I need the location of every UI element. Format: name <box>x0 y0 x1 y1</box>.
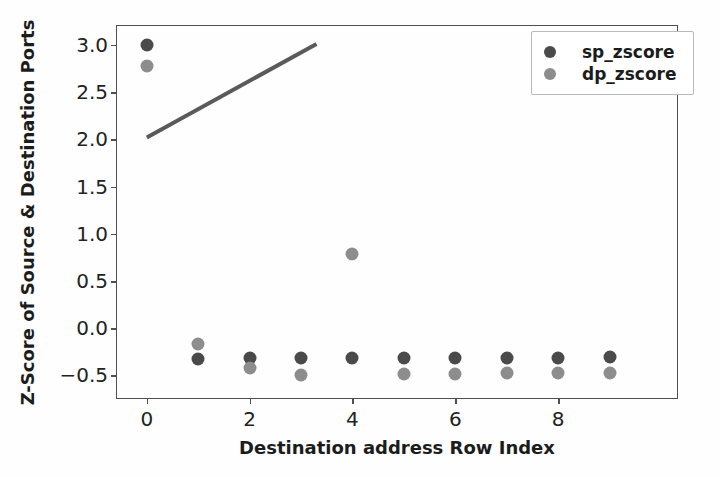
y-tick-label: 1.5 <box>76 177 108 197</box>
data-point-dp_zscore <box>397 367 410 380</box>
y-tick-mark <box>111 139 117 141</box>
data-point-sp_zscore <box>552 351 565 364</box>
y-axis-label-text: Z-Score of Source & Destination Ports <box>18 19 39 405</box>
y-tick-label: 2.0 <box>76 129 108 149</box>
data-point-dp_zscore <box>603 366 616 379</box>
y-tick-mark <box>111 234 117 236</box>
x-tick-mark <box>352 398 354 404</box>
y-tick-label: 0.5 <box>76 271 108 291</box>
chart-figure: Z-Score of Source & Destination Ports 3.… <box>0 0 720 477</box>
data-point-sp_zscore <box>346 352 359 365</box>
y-tick-mark <box>111 187 117 189</box>
legend-marker-dp-zscore <box>544 68 556 80</box>
data-point-sp_zscore <box>397 352 410 365</box>
data-point-sp_zscore <box>603 350 616 363</box>
legend-label-sp-zscore: sp_zscore <box>582 42 674 62</box>
legend-item[interactable]: dp_zscore <box>544 63 677 85</box>
chart-legend: sp_zscore dp_zscore <box>531 31 694 95</box>
data-point-dp_zscore <box>500 366 513 379</box>
y-axis-label: Z-Score of Source & Destination Ports <box>14 25 42 399</box>
data-point-dp_zscore <box>346 247 359 260</box>
x-tick-mark <box>558 398 560 404</box>
data-point-dp_zscore <box>449 367 462 380</box>
x-tick-mark <box>147 398 149 404</box>
data-point-dp_zscore <box>192 338 205 351</box>
legend-label-dp-zscore: dp_zscore <box>582 64 677 84</box>
data-point-sp_zscore <box>449 352 462 365</box>
x-tick-label: 2 <box>243 409 256 429</box>
x-tick-mark <box>250 398 252 404</box>
legend-marker-sp-zscore <box>544 46 556 58</box>
x-tick-mark <box>455 398 457 404</box>
data-point-sp_zscore <box>295 352 308 365</box>
y-tick-mark <box>111 92 117 94</box>
trend-line <box>147 44 317 138</box>
data-point-sp_zscore <box>140 38 153 51</box>
data-point-dp_zscore <box>140 59 153 72</box>
y-tick-label: 2.5 <box>76 82 108 102</box>
y-tick-mark <box>111 281 117 283</box>
y-tick-label: −0.5 <box>59 365 108 385</box>
y-tick-label: 0.0 <box>76 318 108 338</box>
data-point-dp_zscore <box>295 368 308 381</box>
x-axis-label: Destination address Row Index <box>116 437 678 458</box>
legend-item[interactable]: sp_zscore <box>544 41 677 63</box>
y-tick-mark <box>111 375 117 377</box>
y-tick-mark <box>111 45 117 47</box>
data-point-dp_zscore <box>552 366 565 379</box>
data-point-sp_zscore <box>500 352 513 365</box>
x-tick-label: 8 <box>552 409 565 429</box>
y-tick-label: 1.0 <box>76 224 108 244</box>
y-tick-mark <box>111 328 117 330</box>
x-tick-label: 6 <box>449 409 462 429</box>
x-tick-label: 4 <box>346 409 359 429</box>
data-point-dp_zscore <box>243 361 256 374</box>
data-point-sp_zscore <box>192 353 205 366</box>
y-tick-label: 3.0 <box>76 35 108 55</box>
x-tick-label: 0 <box>140 409 153 429</box>
